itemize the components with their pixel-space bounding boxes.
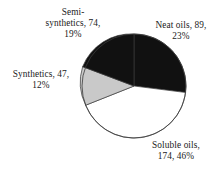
pie-chart-figure: Semi- synthetics, 74, 19% Neat oils, 89,… (0, 0, 222, 174)
pie-label-semi-synthetics: Semi- synthetics, 74, 19% (30, 7, 116, 41)
pie-slice-neat-oils (134, 34, 186, 93)
pie-label-soluble-oils: Soluble oils, 174, 46% (131, 140, 221, 162)
pie-label-synthetics: Synthetics, 47, 12% (2, 69, 80, 91)
pie-label-neat-oils: Neat oils, 89, 23% (140, 20, 222, 42)
